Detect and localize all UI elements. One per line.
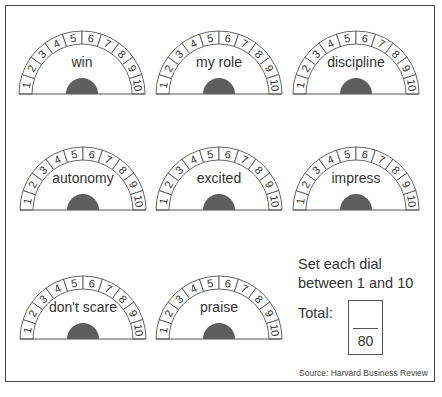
dial-number: 10: [268, 323, 282, 337]
instructions-text: Set each dial between 1 and 10: [298, 255, 438, 293]
dial-label: excited: [197, 170, 241, 186]
dial-number: 10: [405, 78, 419, 92]
dial-label: autonomy: [52, 170, 113, 186]
dial[interactable]: 12345678910my role: [156, 31, 282, 94]
source-credit: Source: Harvard Business Review: [299, 368, 428, 378]
dial-number: 10: [268, 194, 282, 208]
total-denominator: 80: [349, 333, 382, 349]
dial-label: impress: [331, 170, 380, 186]
dial[interactable]: 12345678910discipline: [293, 31, 419, 94]
dial-knob-icon[interactable]: [340, 194, 372, 210]
dial-label: praise: [200, 299, 238, 315]
dial-number: 10: [131, 78, 145, 92]
dial[interactable]: 12345678910autonomy: [20, 147, 146, 210]
total-label: Total:: [298, 305, 333, 321]
dial-knob-icon[interactable]: [66, 78, 98, 94]
dial-knob-icon[interactable]: [203, 78, 235, 94]
dial-label: my role: [196, 54, 242, 70]
dial-label: don't scare: [49, 299, 117, 315]
dial-knob-icon[interactable]: [203, 323, 235, 339]
dial[interactable]: 12345678910win: [19, 31, 145, 94]
fraction-line: [353, 328, 378, 329]
dial-knob-icon[interactable]: [203, 194, 235, 210]
total-box[interactable]: 80: [348, 300, 383, 355]
dial[interactable]: 12345678910praise: [156, 276, 282, 339]
dial-knob-icon[interactable]: [340, 78, 372, 94]
dial-label: win: [70, 54, 92, 70]
dial-number: 10: [132, 323, 146, 337]
dial-number: 10: [132, 194, 146, 208]
dial[interactable]: 12345678910don't scare: [20, 276, 146, 339]
dial-knob-icon[interactable]: [67, 194, 99, 210]
dial-number: 10: [405, 194, 419, 208]
dial-label: discipline: [327, 54, 385, 70]
dial-number: 10: [268, 78, 282, 92]
dial[interactable]: 12345678910impress: [293, 147, 419, 210]
dial-knob-icon[interactable]: [67, 323, 99, 339]
dial[interactable]: 12345678910excited: [156, 147, 282, 210]
